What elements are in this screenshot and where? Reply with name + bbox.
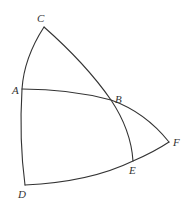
- arc-A-B-F: [22, 89, 169, 142]
- arc-D-E-F: [25, 142, 169, 185]
- arc-C-A-D: [21, 27, 44, 185]
- spherical-triangle-diagram: C A B F E D: [0, 0, 192, 210]
- label-D: D: [17, 188, 26, 200]
- label-E: E: [128, 164, 136, 176]
- label-B: B: [115, 93, 122, 105]
- label-C: C: [37, 12, 45, 24]
- label-F: F: [172, 136, 180, 148]
- label-A: A: [11, 84, 19, 96]
